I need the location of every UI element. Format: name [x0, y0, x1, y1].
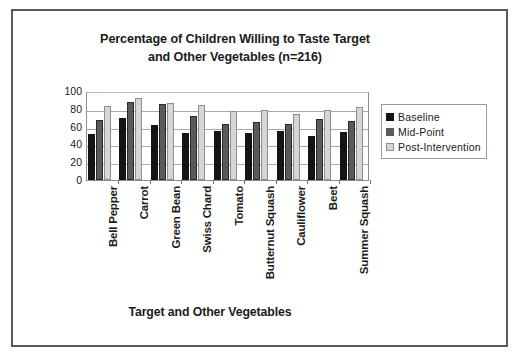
y-axis-tick-label: 60 — [44, 122, 82, 133]
bar[interactable] — [135, 98, 142, 180]
legend-swatch-icon — [386, 128, 394, 136]
chart-title-line-2: and Other Vegetables (n=216) — [40, 48, 430, 66]
bar[interactable] — [277, 131, 284, 180]
x-axis-category-label: Butternut Squash — [264, 186, 276, 279]
bar[interactable] — [348, 121, 355, 180]
x-axis-category-labels: Bell PepperCarrotGreen BeanSwiss ChardTo… — [86, 186, 369, 296]
bar-group — [244, 93, 275, 180]
chart-legend: BaselineMid-PointPost-Intervention — [381, 104, 487, 159]
y-axis-tick-labels: 100806040200 — [44, 84, 82, 189]
bar-group — [276, 93, 307, 180]
chart-title: Percentage of Children Willing to Taste … — [40, 30, 430, 66]
legend-swatch-icon — [386, 113, 394, 121]
bar-group — [87, 93, 118, 180]
x-axis-category-label: Swiss Chard — [201, 186, 213, 253]
x-axis-tick — [370, 180, 371, 184]
bar[interactable] — [119, 118, 126, 180]
bar[interactable] — [293, 114, 300, 180]
x-axis-tick — [118, 180, 119, 184]
y-axis-tick-label: 100 — [44, 86, 82, 97]
bar[interactable] — [167, 103, 174, 180]
x-axis-category-label: Beet — [327, 186, 339, 210]
bar[interactable] — [190, 116, 197, 180]
chart-title-line-1: Percentage of Children Willing to Taste … — [40, 30, 430, 48]
bar[interactable] — [324, 110, 331, 180]
bar[interactable] — [230, 111, 237, 180]
bar[interactable] — [308, 136, 315, 181]
bar[interactable] — [88, 134, 95, 180]
bar[interactable] — [356, 107, 363, 180]
x-axis-tick — [150, 180, 151, 184]
bar[interactable] — [316, 119, 323, 180]
bar[interactable] — [245, 133, 252, 180]
bar[interactable] — [214, 131, 221, 180]
legend-swatch-icon — [386, 143, 394, 151]
bar-group — [181, 93, 212, 180]
y-axis-tick-label: 0 — [44, 175, 82, 186]
legend-label: Post-Intervention — [398, 141, 481, 153]
bar[interactable] — [222, 124, 229, 180]
bar[interactable] — [96, 120, 103, 180]
bar[interactable] — [159, 104, 166, 180]
x-axis-tick — [276, 180, 277, 184]
x-axis-tick — [244, 180, 245, 184]
bar[interactable] — [198, 105, 205, 180]
x-axis-tick — [181, 180, 182, 184]
x-axis-title: Target and Other Vegetables — [60, 305, 360, 319]
bar[interactable] — [285, 124, 292, 180]
y-axis-tick-label: 80 — [44, 104, 82, 115]
bar-series-container — [87, 93, 368, 180]
legend-label: Mid-Point — [398, 126, 444, 138]
bar-group — [339, 93, 370, 180]
bar[interactable] — [253, 122, 260, 180]
bar[interactable] — [182, 133, 189, 180]
x-axis-category-label: Green Bean — [170, 186, 182, 249]
bar[interactable] — [340, 132, 347, 180]
legend-label: Baseline — [398, 111, 440, 123]
bar-group — [307, 93, 338, 180]
y-axis-tick-label: 20 — [44, 157, 82, 168]
bar[interactable] — [127, 102, 134, 180]
bar[interactable] — [104, 106, 111, 180]
y-axis-tick-label: 40 — [44, 139, 82, 150]
bar-group — [118, 93, 149, 180]
legend-item[interactable]: Baseline — [386, 109, 481, 124]
chart-figure: Percentage of Children Willing to Taste … — [0, 0, 521, 364]
x-axis-tick — [213, 180, 214, 184]
x-axis-tick — [339, 180, 340, 184]
plot-area — [86, 92, 369, 181]
x-axis-category-label: Cauliflower — [295, 186, 307, 246]
x-axis-category-label: Bell Pepper — [107, 186, 119, 247]
bar-group — [150, 93, 181, 180]
x-axis-category-label: Summer Squash — [358, 186, 370, 274]
bar[interactable] — [261, 110, 268, 180]
x-axis-category-label: Carrot — [138, 186, 150, 219]
x-axis-tick — [307, 180, 308, 184]
legend-item[interactable]: Post-Intervention — [386, 139, 481, 154]
x-axis-category-label: Tomato — [233, 186, 245, 225]
legend-item[interactable]: Mid-Point — [386, 124, 481, 139]
bar[interactable] — [151, 125, 158, 180]
bar-group — [213, 93, 244, 180]
